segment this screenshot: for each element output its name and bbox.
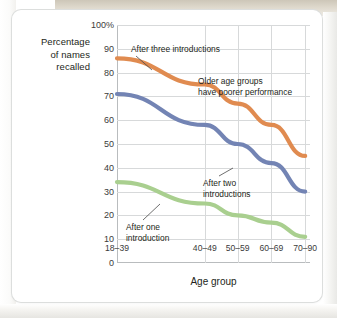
annotation-after-two: After two introductions bbox=[203, 178, 251, 199]
y-axis-tick-label: 100% bbox=[78, 20, 114, 30]
y-axis-tick-label: 80 bbox=[78, 68, 114, 78]
x-axis-title: Age group bbox=[117, 276, 310, 287]
y-axis-tick-label: 60 bbox=[78, 115, 114, 125]
y-axis-tick-label: 90 bbox=[78, 44, 114, 54]
y-axis-tick-label: 20 bbox=[78, 210, 114, 220]
x-axis-tick-label: 70–90 bbox=[293, 243, 317, 253]
annotation-after-one-line-2: introduction bbox=[126, 233, 169, 244]
annotation-older-age-groups-line-1: Older age groups bbox=[198, 76, 292, 87]
annotation-after-one: After one introduction bbox=[126, 222, 169, 243]
y-axis-tick-label: 40 bbox=[78, 163, 114, 173]
x-axis-tick-label: 18–39 bbox=[105, 243, 129, 253]
y-axis-tick-labels: 0102030405060708090100% bbox=[72, 25, 114, 263]
chart-page: Percentage of names recalled 01020304050… bbox=[0, 0, 337, 318]
paper-right-edge bbox=[323, 12, 337, 318]
x-axis-tick-label: 60–69 bbox=[259, 243, 283, 253]
annotation-after-one-line-1: After one bbox=[126, 222, 169, 233]
annotation-after-three: After three introductions bbox=[131, 44, 220, 55]
y-axis-tick-label: 0 bbox=[78, 258, 114, 268]
y-axis-tick-label: 50 bbox=[78, 139, 114, 149]
annotation-after-two-line-1: After two bbox=[203, 178, 251, 189]
data-line-after-two-introductions bbox=[117, 94, 305, 192]
data-line-after-three-introductions bbox=[117, 58, 305, 156]
y-axis-tick-label: 30 bbox=[78, 187, 114, 197]
x-axis-tick-label: 40–49 bbox=[193, 243, 217, 253]
annotation-after-three-line-1: After three introductions bbox=[131, 44, 220, 55]
annotation-older-age-groups: Older age groups have poorer performance bbox=[198, 76, 292, 97]
x-axis-tick-label: 50–59 bbox=[226, 243, 250, 253]
annotation-older-age-groups-line-2: have poorer performance bbox=[198, 87, 292, 98]
annotation-after-two-line-2: introductions bbox=[203, 189, 251, 200]
paper-bottom-edge bbox=[0, 304, 337, 318]
y-axis-tick-label: 70 bbox=[78, 91, 114, 101]
